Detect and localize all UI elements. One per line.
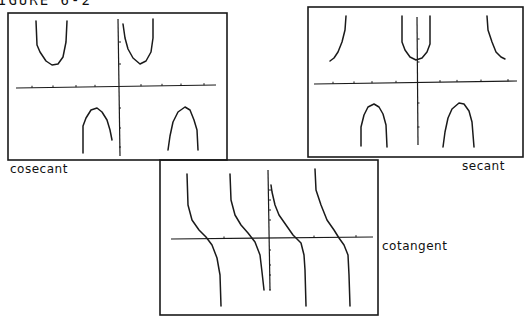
cotangent-curve-branch: [187, 174, 221, 306]
cosecant-curve-branch: [123, 19, 153, 64]
cotangent-curve-branch: [271, 185, 306, 306]
cotangent-label: cotangent: [382, 239, 447, 253]
cosecant-label: cosecant: [10, 162, 68, 176]
cotangent-curve-branch: [230, 174, 264, 290]
secant-y-axis: [417, 17, 418, 145]
trig-graphs-canvas: [0, 0, 528, 320]
cosecant-x-axis: [16, 85, 216, 88]
cosecant-curve-branch: [168, 107, 198, 150]
secant-curve-branch: [402, 16, 430, 60]
secant-graph: [308, 7, 523, 157]
cosecant-y-axis: [118, 19, 120, 156]
secant-x-axis: [314, 81, 517, 84]
cosecant-graph: [8, 13, 227, 160]
cotangent-x-axis: [171, 237, 373, 239]
cosecant-curve-branch: [36, 21, 67, 65]
secant-label: secant: [462, 159, 505, 173]
cotangent-graph: [160, 160, 378, 315]
cosecant-curve-branch: [83, 108, 112, 153]
secant-curve-branch: [487, 16, 505, 59]
cotangent-y-axis: [268, 170, 270, 290]
secant-curve-branch: [361, 104, 387, 147]
secant-curve-branch: [443, 103, 474, 147]
secant-curve-branch: [330, 16, 346, 61]
